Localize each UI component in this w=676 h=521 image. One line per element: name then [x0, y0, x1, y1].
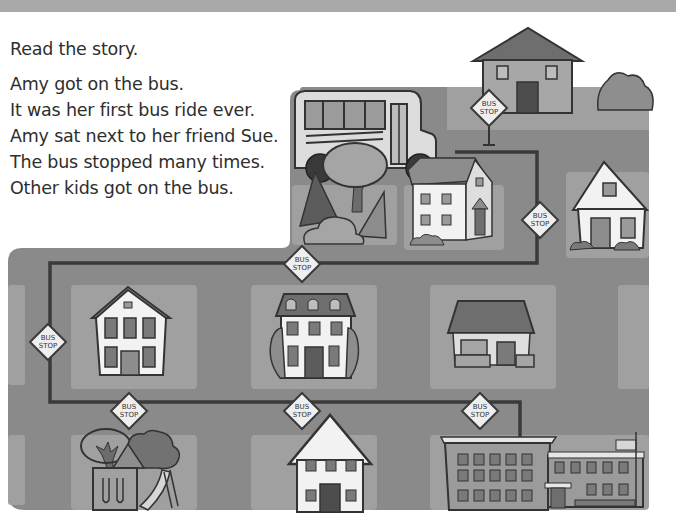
- top-house-icon: [473, 28, 670, 113]
- house-2-icon: [270, 294, 358, 378]
- svg-text:STOP: STOP: [120, 411, 138, 419]
- svg-text:STOP: STOP: [293, 264, 311, 272]
- svg-text:BUS: BUS: [482, 100, 497, 108]
- lot-left-edge-3: [8, 435, 25, 505]
- svg-text:BUS: BUS: [122, 403, 137, 411]
- bus-route-map: BUS STOP BUS STOP BUS STOP BUS STOP BUS …: [0, 0, 676, 521]
- lot-left-edge-1: [8, 285, 25, 385]
- svg-text:STOP: STOP: [39, 342, 57, 350]
- svg-text:BUS: BUS: [41, 334, 56, 342]
- svg-text:BUS: BUS: [295, 403, 310, 411]
- house-white-near-bus-icon: [408, 158, 492, 245]
- svg-text:STOP: STOP: [471, 411, 489, 419]
- house-3-icon: [448, 301, 534, 367]
- svg-text:STOP: STOP: [480, 108, 498, 116]
- svg-text:STOP: STOP: [531, 220, 549, 228]
- svg-text:STOP: STOP: [293, 411, 311, 419]
- lot-right-edge-2: [618, 285, 649, 389]
- svg-text:BUS: BUS: [533, 212, 548, 220]
- svg-text:BUS: BUS: [473, 403, 488, 411]
- svg-text:BUS: BUS: [295, 256, 310, 264]
